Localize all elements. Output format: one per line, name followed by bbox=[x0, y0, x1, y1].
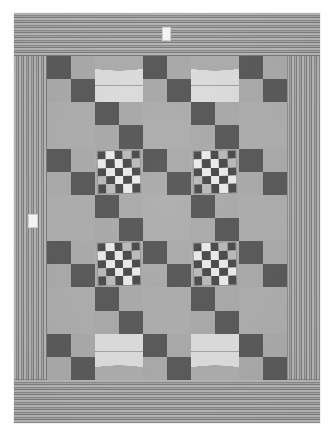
quilt-block bbox=[191, 195, 239, 241]
block-checkerboard bbox=[95, 149, 143, 195]
block-scalloped-light bbox=[191, 334, 239, 380]
checkerboard-square bbox=[228, 167, 237, 176]
block-plain bbox=[143, 195, 191, 241]
block-four-patch bbox=[239, 149, 287, 195]
scallop-seam bbox=[95, 85, 143, 86]
four-patch-quarter bbox=[47, 149, 71, 172]
four-patch-quarter bbox=[71, 334, 95, 357]
quilt-block bbox=[239, 102, 287, 148]
quilt-block bbox=[239, 241, 287, 287]
four-patch-quarter bbox=[47, 357, 71, 380]
checkerboard-patch bbox=[97, 243, 140, 286]
block-four-patch bbox=[47, 56, 95, 102]
block-four-patch bbox=[143, 149, 191, 195]
quilt-block bbox=[239, 56, 287, 102]
four-patch-quarter bbox=[191, 125, 215, 148]
checkerboard-square bbox=[98, 277, 107, 286]
checkerboard-square bbox=[98, 159, 107, 168]
checkerboard-square bbox=[228, 276, 237, 285]
four-patch-quarter bbox=[71, 241, 95, 264]
quilt-block bbox=[191, 241, 239, 287]
quilt-block bbox=[47, 287, 95, 333]
quilt-artifact bbox=[14, 13, 320, 423]
quilt-border-bottom bbox=[14, 380, 320, 423]
checkerboard-square bbox=[115, 176, 124, 185]
four-patch-quarter bbox=[167, 149, 191, 172]
four-patch-quarter bbox=[95, 102, 119, 125]
quilt-block bbox=[47, 56, 95, 102]
block-four-patch bbox=[47, 149, 95, 195]
block-plain bbox=[239, 287, 287, 333]
four-patch-quarter bbox=[71, 357, 95, 380]
four-patch-quarter bbox=[95, 125, 119, 148]
four-patch-quarter bbox=[239, 264, 263, 287]
checkerboard-square bbox=[131, 159, 140, 168]
checkerboard-square bbox=[123, 159, 132, 168]
four-patch-quarter bbox=[167, 357, 191, 380]
four-patch-quarter bbox=[47, 334, 71, 357]
checkerboard-square bbox=[114, 151, 123, 160]
block-plain bbox=[143, 287, 191, 333]
checkerboard-square bbox=[131, 150, 140, 159]
four-patch-quarter bbox=[47, 79, 71, 102]
four-patch-quarter bbox=[191, 287, 215, 310]
scallop-panel bbox=[95, 334, 143, 380]
block-plain bbox=[239, 102, 287, 148]
quilt-block bbox=[191, 287, 239, 333]
block-plain bbox=[47, 287, 95, 333]
four-patch-quarter bbox=[215, 311, 239, 334]
four-patch-quarter bbox=[143, 149, 167, 172]
four-patch-quarter bbox=[95, 311, 119, 334]
checkerboard-square bbox=[228, 184, 237, 193]
checkerboard-square bbox=[123, 176, 132, 185]
block-scalloped-light bbox=[95, 334, 143, 380]
quilt-block bbox=[95, 195, 143, 241]
four-patch-quarter bbox=[239, 79, 263, 102]
four-patch-quarter bbox=[167, 56, 191, 79]
block-four-patch bbox=[191, 287, 239, 333]
four-patch-quarter bbox=[47, 241, 71, 264]
four-patch-quarter bbox=[95, 195, 119, 218]
four-patch-quarter bbox=[239, 241, 263, 264]
block-checkerboard bbox=[191, 241, 239, 287]
quilt-center-field bbox=[47, 56, 287, 380]
checkerboard-square bbox=[219, 176, 228, 185]
checkerboard-square bbox=[219, 167, 228, 176]
four-patch-quarter bbox=[263, 56, 287, 79]
block-four-patch bbox=[143, 56, 191, 102]
quilt-border-right bbox=[287, 56, 320, 380]
checkerboard-patch bbox=[193, 243, 236, 286]
checkerboard-square bbox=[106, 168, 115, 177]
checkerboard-patch bbox=[97, 150, 140, 193]
quilt-block bbox=[143, 334, 191, 380]
four-patch-quarter bbox=[71, 56, 95, 79]
four-patch-quarter bbox=[47, 56, 71, 79]
block-four-patch bbox=[95, 287, 143, 333]
checkerboard-square bbox=[202, 176, 211, 185]
four-patch-quarter bbox=[263, 357, 287, 380]
quilt-block bbox=[143, 56, 191, 102]
four-patch-quarter bbox=[167, 264, 191, 287]
four-patch-quarter bbox=[215, 125, 239, 148]
checkerboard-square bbox=[98, 184, 107, 193]
scallop-panel bbox=[191, 334, 239, 380]
block-plain bbox=[143, 102, 191, 148]
checkerboard-square bbox=[115, 184, 124, 193]
scale-marker-left bbox=[28, 214, 38, 228]
four-patch-quarter bbox=[263, 149, 287, 172]
checkerboard-square bbox=[123, 276, 132, 285]
four-patch-quarter bbox=[143, 79, 167, 102]
quilt-block bbox=[47, 149, 95, 195]
quilt-block bbox=[95, 334, 143, 380]
checkerboard-square bbox=[193, 151, 202, 160]
block-four-patch bbox=[143, 241, 191, 287]
block-four-patch bbox=[47, 334, 95, 380]
four-patch-quarter bbox=[143, 357, 167, 380]
four-patch-quarter bbox=[191, 218, 215, 241]
block-four-patch bbox=[191, 195, 239, 241]
four-patch-quarter bbox=[119, 125, 143, 148]
block-checkerboard bbox=[191, 149, 239, 195]
four-patch-quarter bbox=[263, 264, 287, 287]
checkerboard-square bbox=[203, 277, 212, 286]
border-seam-right bbox=[287, 56, 288, 380]
